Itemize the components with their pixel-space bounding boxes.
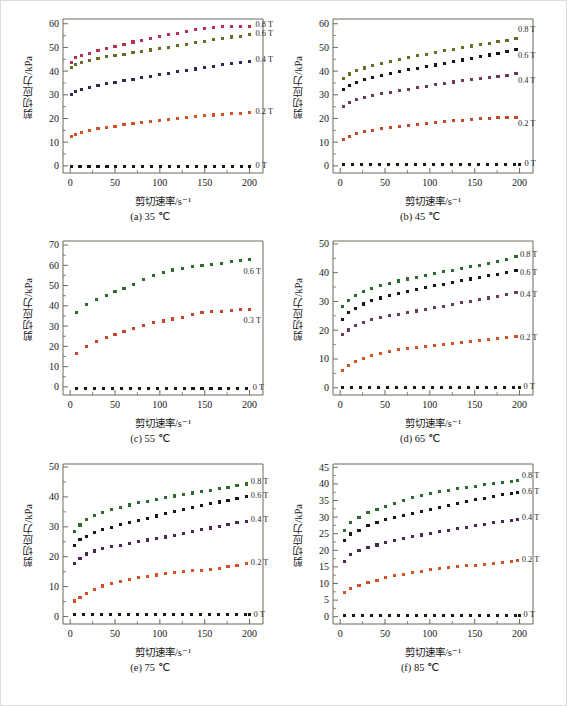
data-point: [217, 613, 220, 616]
data-point: [176, 32, 179, 35]
data-point: [496, 40, 499, 43]
data-point: [442, 305, 445, 308]
data-point: [101, 511, 104, 514]
data-point: [152, 274, 155, 277]
data-point: [174, 387, 177, 390]
data-point: [415, 614, 418, 617]
data-point: [149, 120, 152, 123]
data-point: [200, 528, 203, 531]
data-point: [123, 165, 126, 168]
data-point: [389, 91, 392, 94]
x-tick-label: 0: [338, 177, 343, 188]
data-point: [377, 386, 380, 389]
x-tick-label: 0: [68, 177, 73, 188]
data-point: [362, 290, 365, 293]
series-02t: [343, 559, 519, 594]
data-point: [341, 369, 344, 372]
data-point: [194, 41, 197, 44]
data-point: [203, 114, 206, 117]
y-tick-label: 50: [49, 461, 59, 472]
data-point: [119, 544, 122, 547]
series-label: 0.6 T: [256, 29, 274, 38]
data-point: [203, 66, 206, 69]
data-point: [456, 487, 459, 490]
x-axis-label: 剪切速率/s⁻¹: [63, 193, 263, 208]
data-point: [402, 499, 405, 502]
data-point: [422, 386, 425, 389]
data-point: [245, 387, 248, 390]
data-point: [354, 307, 357, 310]
data-point: [460, 614, 463, 617]
panel-caption: (a) 35 ℃: [19, 210, 281, 222]
data-point: [96, 49, 99, 52]
data-point: [200, 504, 203, 507]
y-tick-label: 20: [49, 113, 59, 124]
data-point: [105, 82, 108, 85]
data-point: [226, 613, 229, 616]
data-point: [360, 163, 363, 166]
data-point: [149, 75, 152, 78]
data-point: [110, 526, 113, 529]
data-point: [483, 483, 486, 486]
data-point: [380, 92, 383, 95]
series-0t: [342, 163, 521, 166]
data-point: [370, 614, 373, 617]
data-point: [73, 544, 76, 547]
data-point: [200, 490, 203, 493]
y-tick-label: 25: [319, 528, 329, 539]
data-point: [483, 523, 486, 526]
data-point: [176, 117, 179, 120]
data-point: [460, 279, 463, 282]
data-point: [452, 60, 455, 63]
data-point: [140, 76, 143, 79]
series-label: 0 T: [524, 382, 535, 391]
data-point: [105, 47, 108, 50]
data-point: [348, 101, 351, 104]
data-point: [177, 165, 180, 168]
data-point: [398, 58, 401, 61]
data-point: [128, 578, 131, 581]
data-point: [93, 531, 96, 534]
data-point: [352, 614, 355, 617]
data-point: [470, 118, 473, 121]
data-point: [451, 281, 454, 284]
data-point: [235, 484, 238, 487]
data-point: [393, 502, 396, 505]
data-point: [158, 35, 161, 38]
data-point: [131, 78, 134, 81]
y-tick-label: 10: [319, 137, 329, 148]
data-point: [349, 521, 352, 524]
data-point: [122, 330, 125, 333]
data-point: [173, 510, 176, 513]
data-point: [239, 25, 242, 28]
axis-frame: [63, 241, 263, 395]
data-point: [218, 387, 221, 390]
x-tick-label: 50: [110, 628, 120, 639]
data-point: [513, 163, 516, 166]
y-axis-label: 剪切应力/kPa: [291, 504, 306, 567]
data-point: [486, 163, 489, 166]
data-point: [78, 596, 81, 599]
data-point: [105, 55, 108, 58]
data-point: [342, 138, 345, 141]
data-point: [239, 308, 242, 311]
series-label: 0.6 T: [520, 268, 538, 277]
data-point: [155, 514, 158, 517]
data-point: [73, 530, 76, 533]
series-02t: [73, 562, 248, 602]
data-point: [355, 81, 358, 84]
y-axis-label: 剪切应力/kPa: [21, 278, 36, 341]
data-point: [514, 335, 517, 338]
data-point: [375, 543, 378, 546]
data-point: [176, 44, 179, 47]
series-label: 0.8 T: [520, 250, 538, 259]
data-point: [343, 560, 346, 563]
data-point: [84, 387, 87, 390]
axis-frame: [333, 464, 533, 624]
data-point: [138, 387, 141, 390]
x-tick-label: 50: [380, 399, 390, 410]
data-point: [477, 163, 480, 166]
data-point: [162, 319, 165, 322]
data-point: [478, 276, 481, 279]
data-point: [368, 386, 371, 389]
